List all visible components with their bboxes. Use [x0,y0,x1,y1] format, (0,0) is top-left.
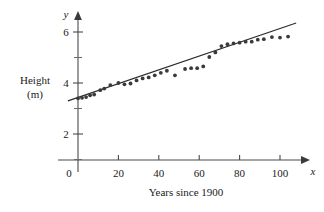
x-tick-label: 40 [153,167,165,179]
x-tick-label: 80 [234,167,246,179]
data-point [183,67,187,71]
data-point [278,36,282,40]
data-point [147,75,151,79]
data-point [102,87,106,91]
data-point [80,96,84,100]
data-point [238,41,242,45]
data-point [108,83,112,87]
data-point [165,69,169,73]
x-tick-label: 20 [113,167,125,179]
data-point [262,37,266,41]
data-point [117,81,121,85]
data-point [173,73,177,77]
x-tick-label: 60 [194,167,206,179]
x-axis-arrowhead [301,156,310,164]
data-point [76,96,80,100]
data-point [84,95,88,99]
data-point [141,77,145,81]
trend-line [68,23,296,101]
data-point [270,35,274,39]
data-point [88,93,92,97]
scatter-plot-figure: 020406080100 246 y x Height (m) Years si… [0,0,324,212]
x-axis-tick-labels: 020406080100 [66,167,289,179]
y-axis-arrowhead [74,11,82,20]
data-point [92,93,96,97]
y-axis-title-line2: (m) [27,88,43,101]
x-tick-label: 0 [66,167,72,179]
data-point [207,55,211,59]
y-tick-label: 4 [63,77,69,89]
data-point [159,71,163,75]
data-point [201,65,205,69]
data-point [213,51,217,55]
x-axis-title: Years since 1900 [149,186,224,198]
y-tick-label: 2 [63,128,69,140]
data-point [226,42,230,46]
data-point [232,42,236,46]
data-point [250,40,254,44]
data-point [123,82,127,86]
x-tick-label: 100 [272,167,289,179]
data-point [153,73,157,77]
data-point-group [76,35,290,101]
data-point [98,88,102,92]
y-tick-label: 6 [63,26,69,38]
data-point [195,66,199,70]
data-point [286,35,290,39]
chart-canvas: 020406080100 246 y x Height (m) Years si… [0,0,324,212]
data-point [135,79,139,83]
y-axis-title-line1: Height [20,74,50,86]
data-point [244,40,248,44]
y-axis-tick-labels: 246 [63,26,69,140]
data-point [220,44,224,48]
y-axis-variable-label: y [63,8,69,20]
data-point [256,38,260,42]
data-point [129,82,133,86]
data-point [189,66,193,70]
x-axis-variable-label: x [310,165,316,177]
x-axis-ticks [118,155,280,160]
